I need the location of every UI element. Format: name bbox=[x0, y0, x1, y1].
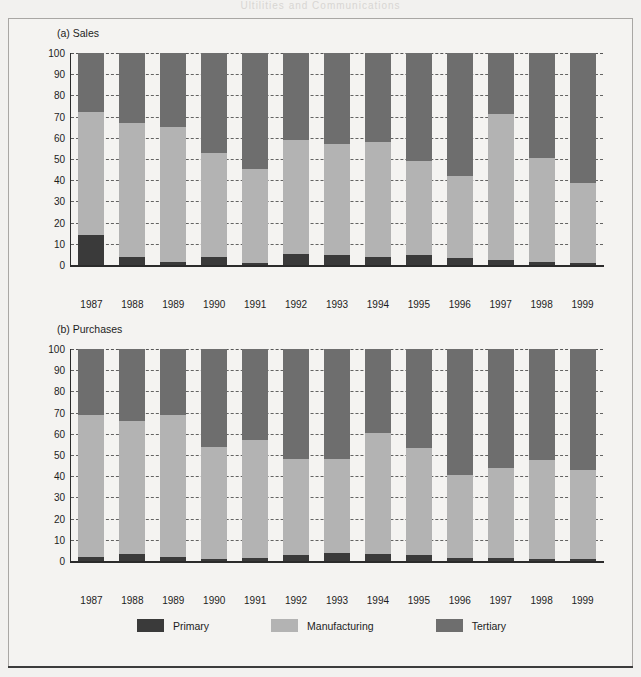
bar-segment-primary bbox=[570, 559, 596, 561]
bar-segment-primary bbox=[406, 555, 432, 561]
bar-segment-manufacturing bbox=[365, 142, 391, 256]
bar-segment-manufacturing bbox=[119, 123, 145, 257]
y-axis-tick-label: 80 bbox=[54, 386, 71, 397]
x-axis-tick-label: 1994 bbox=[367, 595, 389, 606]
bar-segment-manufacturing bbox=[242, 169, 268, 263]
bar-segment-primary bbox=[119, 554, 145, 561]
chart-legend: PrimaryManufacturingTertiary bbox=[9, 619, 634, 632]
bar-sales-1992[interactable] bbox=[283, 53, 309, 265]
bar-purchases-1998[interactable] bbox=[529, 349, 555, 561]
bar-purchases-1988[interactable] bbox=[119, 349, 145, 561]
bar-segment-primary bbox=[242, 263, 268, 265]
bar-purchases-1991[interactable] bbox=[242, 349, 268, 561]
chart-title-sales: (a) Sales bbox=[57, 27, 99, 39]
bar-sales-1989[interactable] bbox=[160, 53, 186, 265]
bar-segment-tertiary bbox=[488, 349, 514, 468]
y-axis-tick-label: 100 bbox=[48, 48, 71, 59]
bar-sales-1998[interactable] bbox=[529, 53, 555, 265]
bar-segment-tertiary bbox=[529, 53, 555, 158]
bar-segment-primary bbox=[488, 260, 514, 265]
bar-segment-primary bbox=[529, 559, 555, 561]
bar-sales-1987[interactable] bbox=[78, 53, 104, 265]
bar-purchases-1997[interactable] bbox=[488, 349, 514, 561]
x-axis-tick-label: 1990 bbox=[203, 299, 225, 310]
bar-segment-primary bbox=[324, 255, 350, 265]
bar-segment-manufacturing bbox=[324, 459, 350, 552]
bar-segment-manufacturing bbox=[529, 460, 555, 560]
bar-sales-1990[interactable] bbox=[201, 53, 227, 265]
chart-panel-sales: (a) Sales 010203040506070809010019871988… bbox=[9, 23, 634, 313]
bar-sales-1993[interactable] bbox=[324, 53, 350, 265]
bar-purchases-1987[interactable] bbox=[78, 349, 104, 561]
bar-sales-1997[interactable] bbox=[488, 53, 514, 265]
x-axis-tick-label: 1987 bbox=[80, 595, 102, 606]
bar-segment-tertiary bbox=[119, 53, 145, 123]
legend-label: Tertiary bbox=[472, 620, 506, 632]
bar-segment-tertiary bbox=[570, 53, 596, 183]
bar-segment-manufacturing bbox=[283, 459, 309, 554]
bar-segment-primary bbox=[365, 554, 391, 561]
y-axis-tick-label: 40 bbox=[54, 471, 71, 482]
legend-item-manufacturing: Manufacturing bbox=[271, 619, 374, 632]
bar-purchases-1989[interactable] bbox=[160, 349, 186, 561]
x-axis-tick-label: 1999 bbox=[571, 299, 593, 310]
bar-segment-tertiary bbox=[201, 349, 227, 447]
x-axis-tick-label: 1994 bbox=[367, 299, 389, 310]
bar-segment-primary bbox=[283, 254, 309, 265]
bar-sales-1994[interactable] bbox=[365, 53, 391, 265]
y-axis-tick-label: 40 bbox=[54, 175, 71, 186]
bar-segment-tertiary bbox=[119, 349, 145, 421]
x-axis-line-purchases bbox=[70, 561, 604, 563]
bar-segment-manufacturing bbox=[365, 433, 391, 554]
x-axis-tick-label: 1989 bbox=[162, 595, 184, 606]
bar-segment-tertiary bbox=[324, 53, 350, 144]
bar-segment-primary bbox=[365, 257, 391, 265]
bar-purchases-1994[interactable] bbox=[365, 349, 391, 561]
bar-purchases-1996[interactable] bbox=[447, 349, 473, 561]
x-axis-tick-label: 1999 bbox=[571, 595, 593, 606]
y-axis-tick-label: 70 bbox=[54, 407, 71, 418]
y-axis-tick-label: 0 bbox=[59, 556, 71, 567]
bar-segment-tertiary bbox=[283, 349, 309, 459]
x-axis-tick-label: 1988 bbox=[121, 595, 143, 606]
x-axis-tick-label: 1989 bbox=[162, 299, 184, 310]
bar-sales-1999[interactable] bbox=[570, 53, 596, 265]
bar-segment-tertiary bbox=[324, 349, 350, 459]
x-axis-tick-label: 1993 bbox=[326, 299, 348, 310]
y-axis-tick-label: 10 bbox=[54, 534, 71, 545]
bar-segment-manufacturing bbox=[488, 114, 514, 259]
bar-sales-1995[interactable] bbox=[406, 53, 432, 265]
bar-segment-primary bbox=[447, 258, 473, 265]
bar-sales-1996[interactable] bbox=[447, 53, 473, 265]
x-axis-tick-label: 1995 bbox=[408, 299, 430, 310]
bar-sales-1991[interactable] bbox=[242, 53, 268, 265]
bar-segment-manufacturing bbox=[570, 183, 596, 263]
bar-segment-tertiary bbox=[160, 349, 186, 415]
y-axis-tick-label: 70 bbox=[54, 111, 71, 122]
x-axis-tick-label: 1998 bbox=[530, 595, 552, 606]
bar-segment-manufacturing bbox=[78, 112, 104, 235]
bar-segment-manufacturing bbox=[160, 127, 186, 262]
bar-purchases-1993[interactable] bbox=[324, 349, 350, 561]
legend-swatch-icon bbox=[436, 619, 463, 632]
y-axis-tick-label: 50 bbox=[54, 154, 71, 165]
bar-segment-tertiary bbox=[488, 53, 514, 114]
x-axis-tick-label: 1988 bbox=[121, 299, 143, 310]
x-axis-tick-label: 1992 bbox=[285, 299, 307, 310]
bar-purchases-1990[interactable] bbox=[201, 349, 227, 561]
bar-segment-manufacturing bbox=[324, 144, 350, 255]
x-axis-tick-label: 1990 bbox=[203, 595, 225, 606]
bar-segment-manufacturing bbox=[529, 158, 555, 262]
bar-segment-tertiary bbox=[406, 53, 432, 161]
bar-segment-manufacturing bbox=[447, 176, 473, 258]
bar-segment-tertiary bbox=[365, 53, 391, 142]
bar-purchases-1995[interactable] bbox=[406, 349, 432, 561]
bar-segment-manufacturing bbox=[283, 140, 309, 254]
x-axis-tick-label: 1996 bbox=[449, 595, 471, 606]
x-axis-tick-label: 1996 bbox=[449, 299, 471, 310]
x-axis-tick-label: 1993 bbox=[326, 595, 348, 606]
bar-purchases-1992[interactable] bbox=[283, 349, 309, 561]
bar-segment-tertiary bbox=[242, 53, 268, 169]
bar-purchases-1999[interactable] bbox=[570, 349, 596, 561]
bar-sales-1988[interactable] bbox=[119, 53, 145, 265]
